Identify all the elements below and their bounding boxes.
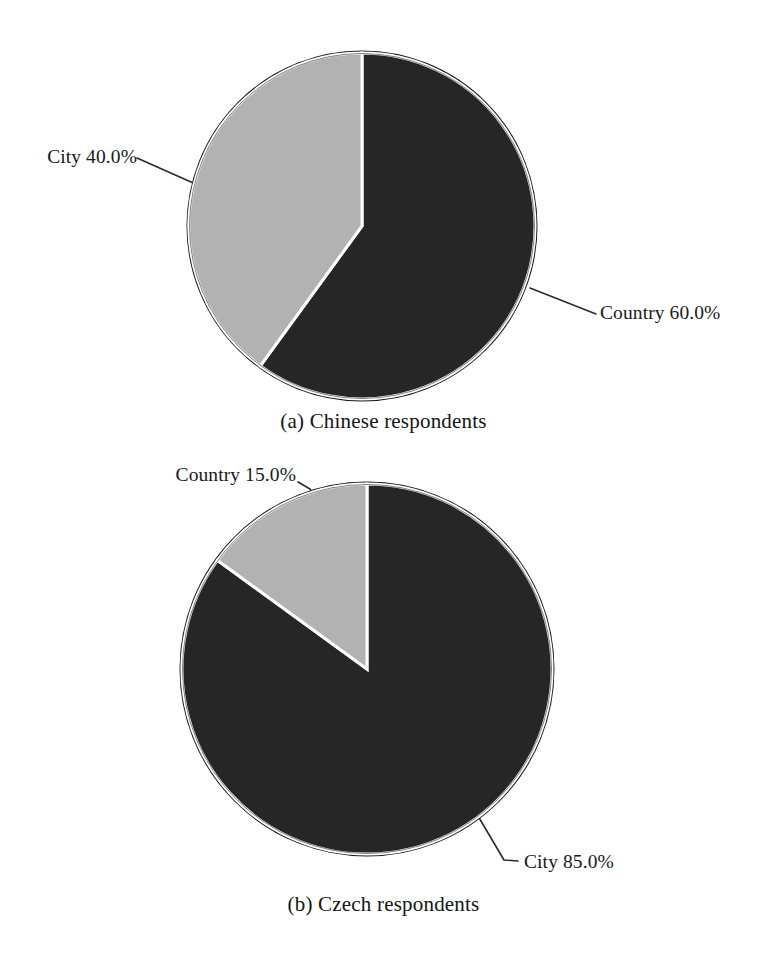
- pie-chart-b: [172, 477, 562, 861]
- panel-czech-respondents: Country 15.0% City 85.0% (b) Czech respo…: [0, 446, 767, 960]
- pie-a-label-country: Country 60.0%: [600, 302, 720, 323]
- pie-b-label-country: Country 15.0%: [30, 464, 296, 485]
- pie-chart-figure: City 40.0% Country 60.0% (a) Chinese res…: [0, 0, 767, 960]
- pie-b-label-city: City 85.0%: [524, 851, 614, 872]
- panel-chinese-respondents: City 40.0% Country 60.0% (a) Chinese res…: [0, 0, 767, 446]
- caption-b: (b) Czech respondents: [0, 892, 767, 917]
- pie-chart-a: [180, 50, 544, 402]
- pie-a-label-city: City 40.0%: [0, 146, 137, 167]
- caption-a: (a) Chinese respondents: [0, 409, 767, 434]
